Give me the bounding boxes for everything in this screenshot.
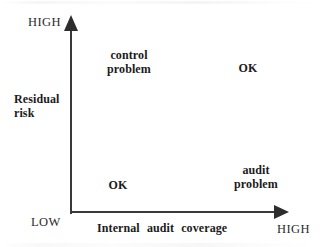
- quadrant-label-lower-right: audit problem: [219, 163, 293, 191]
- y-axis-title: Residual risk: [14, 92, 59, 120]
- x-axis-line: [70, 211, 279, 213]
- x-axis-title: Internal audit coverage: [97, 221, 227, 235]
- quadrant-label-upper-left: control problem: [92, 48, 166, 76]
- quadrant-label-upper-right: OK: [231, 61, 265, 75]
- y-axis-line: [70, 27, 72, 214]
- matrix-diagram: HIGH LOW HIGH Residual risk Internal aud…: [0, 0, 320, 247]
- scan-artifact-top: [0, 1, 320, 4]
- y-axis-high-label: HIGH: [28, 15, 61, 30]
- scan-artifact-bottom: [0, 243, 320, 247]
- y-axis-arrowhead-icon: [64, 15, 78, 31]
- x-axis-arrowhead-icon: [274, 205, 289, 219]
- quadrant-label-lower-left: OK: [101, 178, 135, 192]
- y-axis-low-label: LOW: [31, 215, 61, 230]
- x-axis-high-label: HIGH: [277, 222, 310, 237]
